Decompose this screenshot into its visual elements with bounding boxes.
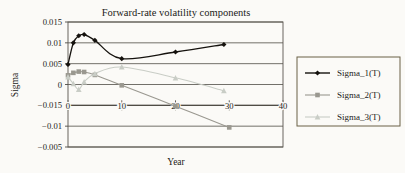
legend-label: Sigma_2(T) [337,90,381,100]
y-tick-label: −0.005 [38,142,62,152]
y-tick-label: −0.015 [38,100,62,110]
data-point-marker [315,93,320,98]
x-tick-label: 30 [225,101,234,111]
chart-title: Forward-rate volatility components [102,7,251,18]
x-axis-title: Year [167,157,185,167]
legend-label: Sigma_1(T) [337,68,381,78]
y-tick-label: 0.015 [43,17,62,27]
data-point-marker [82,70,87,75]
chart-figure: Forward-rate volatility components 0.015… [0,0,405,173]
y-axis-title: Sigma [10,72,20,97]
x-tick-label: 40 [279,101,288,111]
data-point-marker [76,69,81,74]
y-tick-label: 0 [58,80,62,90]
data-point-marker [227,125,232,130]
legend-label: Sigma_3(T) [337,112,381,122]
forward-rate-volatility-chart: Forward-rate volatility components 0.015… [0,0,405,173]
y-tick-label: 0.005 [43,59,62,69]
x-tick-label: 10 [117,101,126,111]
legend: Sigma_1(T)Sigma_2(T)Sigma_3(T) [297,57,400,126]
data-point-marker [119,83,124,88]
data-point-marker [71,71,76,76]
data-point-marker [173,104,178,109]
x-tick-label: 0 [66,101,70,111]
y-tick-label: 0.01 [47,38,62,48]
y-tick-label: −0.01 [42,121,62,131]
